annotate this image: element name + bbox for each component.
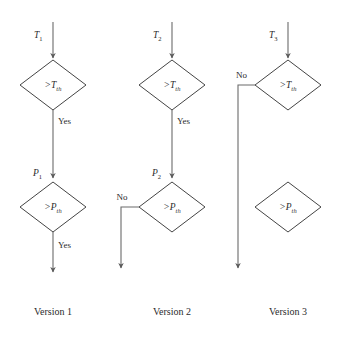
- v1-mid-label: P1: [32, 168, 42, 180]
- v1-decision-temperature-label: >Tth: [45, 80, 62, 92]
- v2-decision-power-label: >Pth: [163, 202, 180, 214]
- v2-mid-label: P2: [151, 168, 161, 180]
- v3-decision-power-label: >Pth: [279, 202, 296, 214]
- version-3-group: T3 >Tth No >Pth Version 3: [236, 22, 321, 317]
- v1-input-label: T1: [34, 30, 43, 42]
- v3-decision-temperature-label: >Tth: [280, 80, 297, 92]
- v2-caption: Version 2: [153, 306, 191, 317]
- v1-decision-power-label: >Pth: [44, 202, 61, 214]
- v2-input-label: T2: [153, 30, 162, 42]
- v1-final-yes-label: Yes: [58, 240, 72, 250]
- v3-input-label: T3: [269, 30, 278, 42]
- v1-caption: Version 1: [34, 306, 72, 317]
- v2-yes-label: Yes: [177, 116, 191, 126]
- v2-no-label: No: [117, 192, 128, 202]
- flowchart-canvas: T1 >Tth Yes P1 >Pth Yes Version 1 T2 >Tt…: [0, 0, 339, 337]
- flowchart-figure: T1 >Tth Yes P1 >Pth Yes Version 1 T2 >Tt…: [0, 0, 339, 337]
- v3-no-label: No: [236, 70, 247, 80]
- v2-no-edge: [121, 207, 139, 268]
- v1-yes-label: Yes: [58, 116, 72, 126]
- v3-no-edge: [238, 85, 255, 268]
- v3-caption: Version 3: [269, 306, 307, 317]
- version-1-group: T1 >Tth Yes P1 >Pth Yes Version 1: [20, 22, 86, 317]
- version-2-group: T2 >Tth Yes P2 >Pth No Version 2: [117, 22, 206, 317]
- v2-decision-temperature-label: >Tth: [164, 80, 181, 92]
